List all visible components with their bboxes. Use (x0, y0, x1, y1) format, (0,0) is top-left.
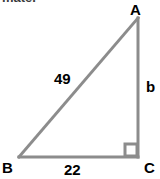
base-side-length-label: 22 (64, 162, 81, 177)
triangle-edges (19, 18, 138, 157)
vertex-label-b: B (2, 160, 13, 175)
right-angle-marker (125, 144, 137, 156)
vertex-label-c: C (144, 160, 155, 175)
vertical-side-length-label: b (146, 79, 155, 94)
hypotenuse-line (19, 18, 138, 157)
triangle-graphic (0, 0, 160, 179)
triangle-diagram: mate. A B C 49 b 22 (0, 0, 160, 179)
hypotenuse-length-label: 49 (54, 71, 71, 86)
vertex-label-a: A (130, 2, 141, 17)
